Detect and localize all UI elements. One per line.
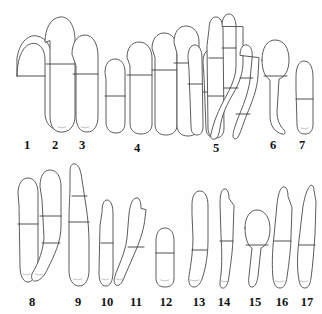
specimen-7-body: [296, 61, 313, 134]
figure-number-14: 14: [218, 296, 231, 309]
figure-number-2: 2: [52, 139, 58, 152]
specimen-17-body: [298, 185, 317, 288]
specimen-9-body: [69, 164, 89, 286]
specimen-group-11: [114, 198, 146, 286]
specimen-group-12: [156, 228, 174, 287]
figure-number-13: 13: [193, 296, 206, 309]
specimen-group-15: [245, 210, 270, 287]
figure-number-5: 5: [213, 142, 219, 155]
specimen-4c-body: [152, 33, 177, 135]
figure-number-16: 16: [276, 296, 289, 309]
specimen-group-17: [298, 185, 317, 288]
figure-number-7: 7: [299, 139, 305, 152]
specimen-16-body: [272, 187, 292, 288]
specimen-11-body: [114, 198, 146, 286]
specimen-15-body: [245, 210, 270, 287]
specimen-group-3: [72, 35, 98, 132]
specimen-group-6: [262, 40, 289, 134]
specimen-group-16: [272, 187, 292, 288]
specimen-3-body: [72, 35, 98, 132]
figure-number-17: 17: [301, 296, 314, 309]
figure-number-10: 10: [101, 296, 114, 309]
figure-number-4: 4: [134, 142, 140, 155]
figure-plate: 1234567891011121314151617: [0, 0, 322, 314]
specimen-4b-body: [127, 42, 152, 134]
specimen-group-10: [99, 200, 113, 286]
figure-number-12: 12: [160, 296, 173, 309]
specimen-group-4: [105, 26, 199, 136]
specimen-group-9: [69, 164, 89, 286]
specimen-8a-body: [18, 178, 38, 282]
specimen-group-8: [18, 170, 61, 282]
figure-number-11: 11: [130, 296, 142, 309]
specimen-14-body: [220, 189, 234, 288]
specimen-group-14: [220, 189, 234, 288]
specimen-13-body: [189, 191, 208, 287]
specimen-group-13: [189, 191, 208, 287]
specimen-drawings-canvas: [0, 0, 322, 314]
figure-number-3: 3: [79, 139, 85, 152]
specimen-12-body: [156, 228, 174, 287]
figure-number-15: 15: [249, 296, 262, 309]
figure-number-8: 8: [29, 296, 35, 309]
specimen-group-7: [296, 61, 313, 134]
specimen-group-5: [188, 14, 259, 139]
figure-number-6: 6: [270, 139, 276, 152]
figure-number-9: 9: [75, 296, 81, 309]
specimen-6-body: [262, 40, 289, 134]
figure-number-1: 1: [24, 139, 30, 152]
